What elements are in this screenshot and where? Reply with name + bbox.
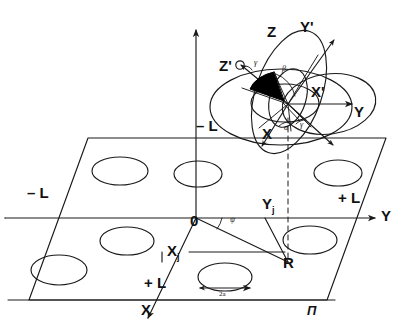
angle-label-gamma-top: γ bbox=[254, 59, 257, 67]
z-prime-node bbox=[236, 61, 244, 69]
bound-label-plus-L-x: + L bbox=[144, 275, 166, 290]
plane-ellipse bbox=[198, 263, 252, 291]
axis-label-X-body: X bbox=[262, 126, 272, 141]
plane-ellipse bbox=[100, 227, 154, 255]
plane-projection-lines bbox=[162, 218, 288, 262]
plane-ellipse bbox=[92, 157, 148, 185]
plane-ellipse bbox=[314, 160, 362, 186]
angle-label-beta: β bbox=[282, 65, 286, 73]
radius-line-R bbox=[196, 218, 288, 262]
origin-label: 0 bbox=[190, 213, 198, 228]
angle-label-gamma-low: γ bbox=[300, 121, 303, 129]
radius-label-R: R bbox=[283, 255, 294, 270]
figure-canvas: Z Y' Z' X' Y X Y X 0 – L – L + L + L П X… bbox=[0, 0, 415, 333]
axis-X bbox=[148, 218, 196, 318]
axis-label-Z: Z bbox=[267, 24, 276, 39]
angle-arc-psi bbox=[217, 218, 222, 229]
bound-label-minus-L-z: – L bbox=[196, 118, 218, 133]
marker-Xj-sub: j bbox=[177, 252, 180, 262]
bound-label-plus-L-y: + L bbox=[338, 190, 360, 205]
bound-label-minus-L-y: – L bbox=[27, 185, 49, 200]
axis-label-Y: Y bbox=[381, 208, 391, 223]
marker-Yj-base: Y bbox=[262, 195, 272, 212]
angle-label-psi: ψ bbox=[230, 216, 235, 224]
axis-label-X: X bbox=[141, 302, 151, 317]
axis-label-Z-prime: Z' bbox=[219, 58, 232, 73]
plane-ellipse bbox=[283, 226, 337, 254]
plane-label: П bbox=[307, 304, 316, 317]
axis-label-X-prime: X' bbox=[311, 84, 325, 99]
angle-label-alpha: α bbox=[284, 124, 288, 132]
marker-Yj-sub: j bbox=[272, 205, 275, 215]
marker-Xj-base: X bbox=[167, 242, 177, 259]
dimension-label-2a: 2a bbox=[219, 291, 226, 298]
axis-label-Y-prime: Y' bbox=[300, 19, 314, 34]
axis-label-Y-body: Y bbox=[354, 104, 364, 119]
diagram-vector-layer bbox=[0, 0, 415, 333]
plane-ellipse bbox=[174, 161, 222, 187]
marker-label-Xj: Xj bbox=[167, 243, 180, 262]
marker-label-Yj: Yj bbox=[262, 196, 275, 215]
